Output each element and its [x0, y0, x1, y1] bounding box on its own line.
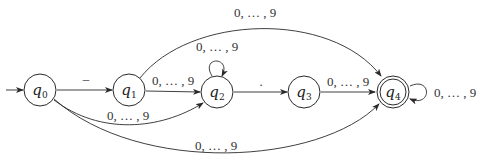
edge-q2-loop: [209, 61, 224, 76]
edge-q1-q4: [140, 29, 381, 78]
state-q3-name: q: [296, 83, 306, 101]
state-q1: q1: [113, 74, 145, 106]
automaton-diagram: – 0, … , 9 0, … , 9 0, … , 9 . 0, … , 9 …: [0, 0, 478, 159]
state-q1-sub: 1: [131, 90, 137, 100]
edge-label-q2-loop: 0, … , 9: [196, 39, 238, 54]
edge-q1-q2: [146, 91, 200, 92]
state-q4-sub: 4: [395, 92, 401, 102]
edge-label-q1-q4: 0, … , 9: [234, 5, 276, 20]
state-q1-name: q: [121, 81, 131, 99]
edge-label-q2-q3: .: [259, 74, 262, 89]
edge-label-q0-q1: –: [82, 71, 90, 86]
edge-label-q4-loop: 0, … , 9: [434, 85, 476, 100]
edge-label-q0-q2: 0, … , 9: [107, 108, 149, 123]
state-q2: q2: [201, 76, 233, 108]
edge-q4-loop: [410, 84, 427, 101]
state-q3-sub: 3: [306, 92, 312, 102]
state-q3: q3: [288, 76, 320, 108]
state-q2-sub: 2: [219, 92, 225, 102]
state-q4-name: q: [385, 83, 395, 101]
state-q0-name: q: [32, 81, 42, 99]
edge-label-q1-q2: 0, … , 9: [152, 73, 194, 88]
state-q0-sub: 0: [42, 90, 48, 100]
state-q4-accepting: q4: [377, 76, 409, 108]
state-q2-name: q: [209, 83, 219, 101]
edge-label-q3-q4: 0, … , 9: [327, 74, 369, 89]
state-q0: q0: [24, 74, 56, 106]
edge-label-q0-q4: 0, … , 9: [195, 138, 237, 153]
